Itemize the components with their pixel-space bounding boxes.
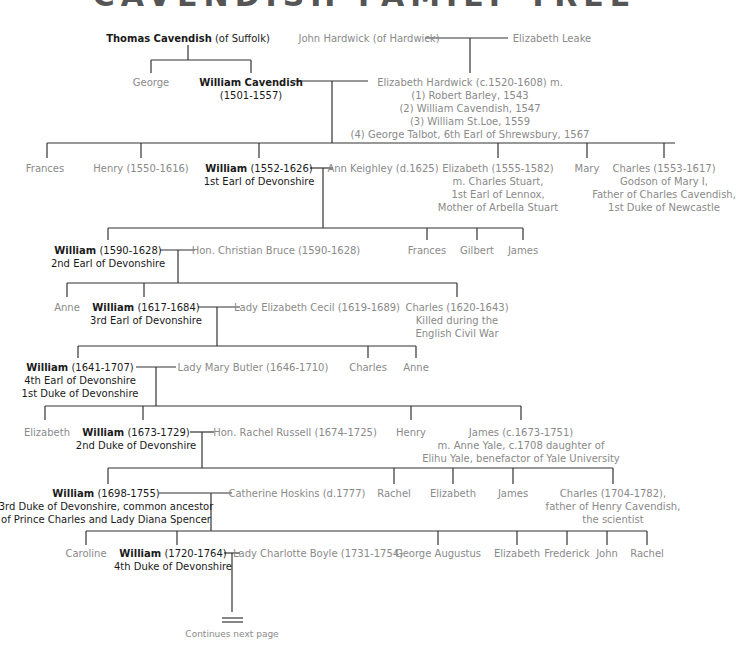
person-thomas-cavendish: Thomas Cavendish (of Suffolk) — [106, 32, 270, 45]
person-rachel-2: Rachel — [630, 547, 664, 560]
person-elizabeth-4: Elizabeth — [494, 547, 540, 560]
person-rachel-1: Rachel — [377, 487, 411, 500]
person-caroline: Caroline — [65, 547, 106, 560]
person-william-1617: William (1617-1684)3rd Earl of Devonshir… — [90, 301, 202, 327]
person-william-cavendish-1501: William Cavendish(1501-1557) — [199, 76, 303, 102]
person-james-1673: James (c.1673-1751)m. Anne Yale, c.1708 … — [422, 426, 620, 465]
person-christian-bruce: Hon. Christian Bruce (1590-1628) — [192, 244, 361, 257]
person-ann-keighley: Ann Keighley (d.1625) — [327, 162, 438, 175]
person-john-hardwick: John Hardwick (of Hardwick) — [298, 32, 439, 45]
person-elizabeth-3: Elizabeth — [430, 487, 476, 500]
person-catherine-hoskins: Catherine Hoskins (d.1777) — [228, 487, 365, 500]
person-charles-1620: Charles (1620-1643)Killed during theEngl… — [405, 301, 508, 340]
person-frederick: Frederick — [544, 547, 590, 560]
person-george: George — [133, 76, 169, 89]
person-frances-1: Frances — [26, 162, 64, 175]
person-charles-1704: Charles (1704-1782),father of Henry Cave… — [546, 487, 681, 526]
person-william-1641: William (1641-1707)4th Earl of Devonshir… — [22, 361, 139, 400]
person-anne-2: Anne — [403, 361, 429, 374]
person-elizabeth-leake: Elizabeth Leake — [513, 32, 591, 45]
person-henry-1550: Henry (1550-1616) — [93, 162, 189, 175]
person-elizabeth-1555: Elizabeth (1555-1582)m. Charles Stuart,1… — [438, 162, 558, 214]
person-james-1: James — [508, 244, 538, 257]
person-john: John — [596, 547, 618, 560]
person-elizabeth-2: Elizabeth — [24, 426, 70, 439]
continues-next-page-note: Continues next page — [185, 628, 278, 641]
person-george-augustus: George Augustus — [395, 547, 481, 560]
person-william-1698: William (1698-1755)3rd Duke of Devonshir… — [0, 487, 213, 526]
person-charles-1553: Charles (1553-1617)Godson of Mary I,Fath… — [592, 162, 736, 214]
person-frances-2: Frances — [408, 244, 446, 257]
person-gilbert: Gilbert — [460, 244, 494, 257]
person-charles-2: Charles — [349, 361, 387, 374]
person-william-1720: William (1720-1764)4th Duke of Devonshir… — [114, 547, 232, 573]
person-william-1552: William (1552-1626)1st Earl of Devonshir… — [204, 162, 315, 188]
person-anne-1: Anne — [54, 301, 80, 314]
person-elizabeth-hardwick: Elizabeth Hardwick (c.1520-1608) m.(1) R… — [351, 76, 590, 141]
person-william-1590: William (1590-1628)2nd Earl of Devonshir… — [51, 244, 165, 270]
person-charlotte-boyle: Lady Charlotte Boyle (1731-1754) — [233, 547, 403, 560]
person-rachel-russell: Hon. Rachel Russell (1674-1725) — [213, 426, 377, 439]
person-james-2: James — [498, 487, 528, 500]
person-elizabeth-cecil: Lady Elizabeth Cecil (1619-1689) — [234, 301, 400, 314]
person-mary-butler: Lady Mary Butler (1646-1710) — [178, 361, 329, 374]
person-william-1673: William (1673-1729)2nd Duke of Devonshir… — [76, 426, 196, 452]
